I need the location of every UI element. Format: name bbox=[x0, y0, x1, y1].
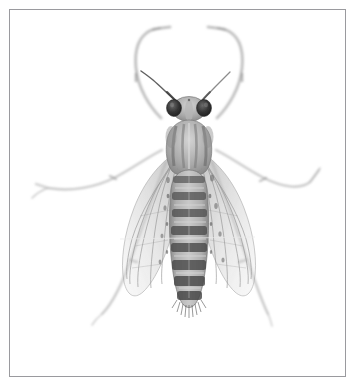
compound-eye-left-highlight bbox=[170, 103, 174, 108]
spiracle-left-3 bbox=[166, 250, 168, 254]
ocellus-center bbox=[188, 99, 190, 101]
thorax-humerus-left bbox=[166, 126, 177, 148]
thorax-humerus-right bbox=[203, 126, 214, 148]
compound-eye-right-highlight bbox=[204, 103, 208, 108]
spiracle-right-1 bbox=[209, 194, 212, 198]
specimen-plate bbox=[0, 0, 356, 389]
insect-specimen-illustration bbox=[10, 10, 345, 376]
compound-eye-right bbox=[197, 100, 212, 117]
spiracle-right-2 bbox=[210, 222, 213, 226]
compound-eye-left bbox=[167, 100, 182, 117]
thorax-stripe-3 bbox=[195, 124, 197, 168]
thorax-group bbox=[166, 120, 214, 176]
spiracle-right-3 bbox=[210, 250, 212, 254]
spiracle-left-1 bbox=[167, 194, 170, 198]
thorax-stripe-2 bbox=[183, 124, 185, 168]
spiracle-left-2 bbox=[166, 222, 169, 226]
